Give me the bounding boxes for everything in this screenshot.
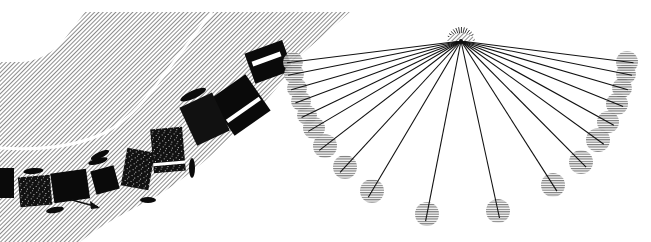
- pendulum-string: [461, 41, 614, 125]
- pendulum-string: [461, 41, 500, 218]
- pendulum-string: [461, 41, 586, 167]
- pendulum-string: [368, 41, 461, 197]
- pendulum-string: [461, 41, 557, 191]
- object-silhouette: [50, 169, 90, 204]
- pendulum-string: [461, 41, 628, 90]
- object-silhouette: [0, 168, 14, 198]
- pendulum-string: [295, 41, 461, 103]
- pendulum-string: [319, 41, 461, 150]
- pendulum-string: [287, 41, 461, 63]
- pendulum-string: [461, 41, 632, 75]
- pendulum-string: [340, 41, 461, 172]
- pendulum-string: [308, 41, 461, 131]
- pendulum-string: [426, 41, 461, 221]
- illustration-canvas: [0, 0, 651, 242]
- object-silhouette: [150, 127, 186, 174]
- pendulum-string: [288, 41, 461, 75]
- pendulum-fan: [283, 27, 638, 226]
